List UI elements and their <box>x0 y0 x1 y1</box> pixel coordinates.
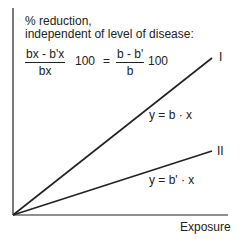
line-II-equation: y = b' · x <box>149 174 194 187</box>
line-I <box>13 58 212 215</box>
formula-right-fraction: b - b' b <box>116 48 144 78</box>
formula-left-numerator: bx - b'x <box>25 48 65 63</box>
formula-right-numerator: b - b' <box>116 48 144 63</box>
formula-left-denominator: bx <box>25 63 65 78</box>
formula-right-denominator: b <box>116 63 144 78</box>
formula-right-factor: 100 <box>148 55 168 68</box>
x-axis-label: Exposure <box>180 221 231 234</box>
line-I-label: I <box>219 51 222 64</box>
formula-left-factor: 100 <box>75 55 95 68</box>
formula-equals: = <box>103 55 110 68</box>
title-line2: independent of level of disease: <box>25 28 194 41</box>
line-II-label: II <box>217 145 224 158</box>
line-I-equation: y = b · x <box>149 109 192 122</box>
formula-left-fraction: bx - b'x bx <box>25 48 65 78</box>
